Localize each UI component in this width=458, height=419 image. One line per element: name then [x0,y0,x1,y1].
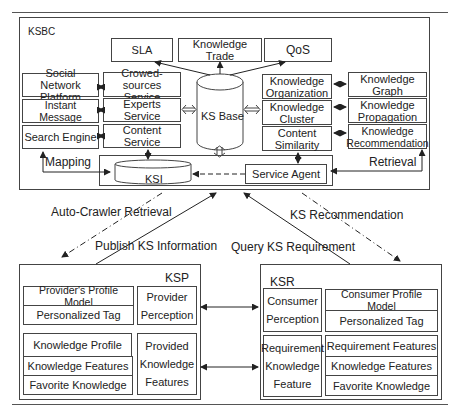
connector-arrows [0,0,458,419]
arrow-retrieval [331,150,422,171]
arrow-kb-sla [155,62,210,75]
arrow-kb-qos [230,62,285,75]
arrow-auto-crawler [62,193,162,257]
kb-ksi-double-arrow [214,146,225,157]
kb-ops-double-arrow [244,105,260,114]
arrow-publish [96,193,216,264]
arrow-mapping [43,152,110,172]
kb-services-double-arrow [182,105,196,114]
arrow-ks-recommendation [302,193,400,261]
arrow-query [244,193,350,264]
